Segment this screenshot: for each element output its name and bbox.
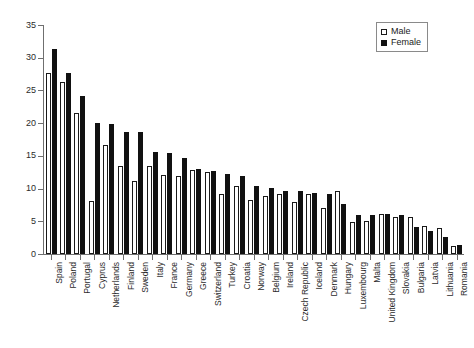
bar-female [109, 124, 114, 254]
y-axis-tick-label: 20 [2, 119, 36, 128]
bar-female [138, 132, 143, 254]
bar-male [364, 221, 369, 254]
x-axis-tick [341, 255, 342, 260]
x-axis-tick [312, 255, 313, 260]
y-axis-tick [38, 189, 43, 190]
x-axis-tick [196, 255, 197, 260]
legend-label-female: Female [391, 37, 421, 48]
bar-male [408, 217, 413, 254]
y-axis-tick [38, 123, 43, 124]
y-axis-tick-label: 0 [2, 250, 36, 259]
x-axis-category-label: Romania [460, 262, 469, 296]
x-axis-category-label: Sweden [141, 262, 150, 293]
x-axis-tick [225, 255, 226, 260]
bar-female [385, 214, 390, 254]
bar-male [379, 214, 384, 254]
bar-female [298, 191, 303, 254]
x-axis-tick [399, 255, 400, 260]
x-axis-tick [94, 255, 95, 260]
y-axis-tick-label: 30 [2, 53, 36, 62]
x-axis-tick [138, 255, 139, 260]
x-axis-category-label: Switzerland [214, 262, 223, 306]
x-axis-tick [355, 255, 356, 260]
bar-male [234, 186, 239, 254]
x-axis-tick [297, 255, 298, 260]
x-axis-category-label: Malta [373, 262, 382, 283]
y-axis-tick [38, 221, 43, 222]
legend-swatch-female-icon [381, 40, 387, 46]
bar-female [196, 169, 201, 254]
x-axis-category-label: Bulgaria [417, 262, 426, 293]
bar-female [167, 153, 172, 254]
x-axis-tick [210, 255, 211, 260]
bar-female [153, 152, 158, 254]
bar-male [422, 226, 427, 254]
x-axis-tick [370, 255, 371, 260]
x-axis-category-label: Italy [156, 262, 165, 278]
bar-female [52, 49, 57, 254]
x-axis-tick [413, 255, 414, 260]
bar-male [321, 208, 326, 254]
x-axis-category-label: Czech Republic [301, 262, 310, 322]
x-axis-category-label: Iceland [315, 262, 324, 289]
bar-male [451, 246, 456, 254]
x-axis-tick [152, 255, 153, 260]
bar-female [341, 204, 346, 254]
x-axis-category-label: Luxembourg [359, 262, 368, 309]
x-axis-category-label: Ireland [286, 262, 295, 288]
x-axis-tick [442, 255, 443, 260]
bar-male [205, 172, 210, 254]
y-axis-labels: 05101520253035 [0, 0, 36, 348]
x-axis-category-label: Slovakia [402, 262, 411, 294]
x-axis-category-label: Germany [185, 262, 194, 297]
x-axis-category-label: Poland [69, 262, 78, 288]
y-axis-tick [38, 58, 43, 59]
x-axis-category-label: Latvia [431, 262, 440, 285]
x-axis-category-label: United Kingdom [388, 262, 397, 322]
bar-male [46, 73, 51, 254]
x-axis-category-label: Hungary [344, 262, 353, 294]
bar-female [399, 215, 404, 254]
bar-female [327, 194, 332, 254]
bar-male [132, 181, 137, 254]
y-axis-tick [38, 254, 43, 255]
bar-female [66, 73, 71, 254]
bar-male [292, 202, 297, 254]
y-axis-tick [38, 90, 43, 91]
x-axis-tick [428, 255, 429, 260]
x-axis-tick [283, 255, 284, 260]
y-axis-tick-label: 10 [2, 184, 36, 193]
bar-female [211, 171, 216, 254]
bar-female [428, 231, 433, 254]
legend-item-male: Male [381, 26, 421, 37]
x-axis-category-label: Denmark [330, 262, 339, 296]
bar-female [356, 215, 361, 254]
bar-female [225, 174, 230, 254]
legend-item-female: Female [381, 37, 421, 48]
bar-male [89, 201, 94, 254]
bar-male [248, 200, 253, 254]
bar-female [414, 227, 419, 254]
bar-female [95, 123, 100, 255]
x-axis-tick [123, 255, 124, 260]
bar-male [437, 228, 442, 254]
bar-female [370, 215, 375, 254]
x-axis-category-label: Finland [127, 262, 136, 290]
bar-male [219, 194, 224, 254]
plot-area [44, 25, 464, 254]
x-axis-tick [384, 255, 385, 260]
y-axis-tick-label: 35 [2, 21, 36, 30]
bar-male [161, 175, 166, 254]
chart-legend: Male Female [376, 22, 428, 52]
bar-female [443, 237, 448, 254]
x-axis-category-label: Norway [257, 262, 266, 291]
x-axis-category-label: Lithuania [446, 262, 455, 297]
bar-male [74, 113, 79, 254]
bar-male [306, 194, 311, 254]
x-axis-category-label: Spain [55, 262, 64, 284]
bar-female [182, 158, 187, 254]
bar-male [263, 196, 268, 254]
y-axis-tick-label: 25 [2, 86, 36, 95]
legend-swatch-male-icon [381, 29, 387, 35]
x-axis-category-label: France [170, 262, 179, 288]
